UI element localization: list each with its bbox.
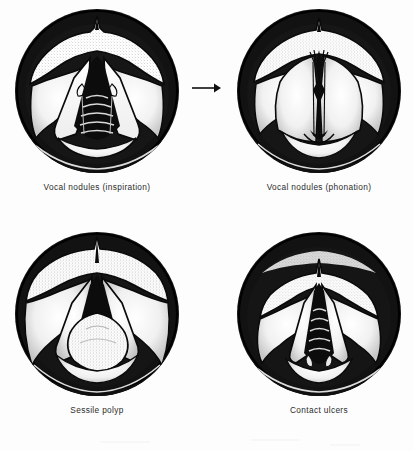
panel-vocal-nodules-inspiration: Vocal nodules (inspiration) (4, 6, 190, 211)
larynx-illustration-sessile-polyp (12, 229, 182, 399)
larynx-illustration-inspiration (12, 6, 182, 176)
caption-vocal-nodules-phonation: Vocal nodules (phonation) (226, 182, 412, 192)
caption-contact-ulcers: Contact ulcers (226, 405, 412, 415)
panel-contact-ulcers: Contact ulcers (226, 229, 412, 434)
larynx-illustration-contact-ulcers (234, 229, 404, 399)
caption-sessile-polyp: Sessile polyp (4, 405, 190, 415)
figure-plate: Vocal nodules (inspiration) (0, 0, 414, 451)
larynx-illustration-phonation (234, 6, 404, 176)
arrow-right-icon (191, 81, 221, 95)
scan-artifact (0, 436, 414, 451)
panel-sessile-polyp: Sessile polyp (4, 229, 190, 434)
caption-vocal-nodules-inspiration: Vocal nodules (inspiration) (4, 182, 190, 192)
panel-vocal-nodules-phonation: Vocal nodules (phonation) (226, 6, 412, 211)
